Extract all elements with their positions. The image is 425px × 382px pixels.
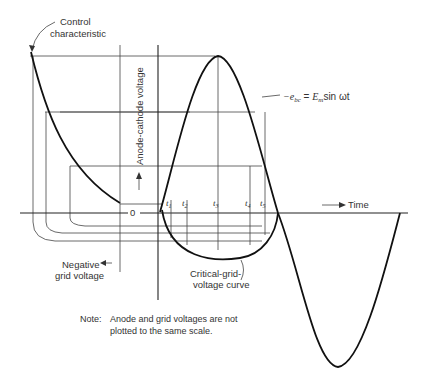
control-label-2: characteristic xyxy=(50,28,106,39)
y-axis-label: Anode-cathode voltage xyxy=(134,67,145,165)
control-leader-arrowhead xyxy=(29,45,35,52)
time-markers: t1 t2 t3 t4 t5 xyxy=(166,198,266,209)
critical-grid-voltage-curve xyxy=(162,210,278,259)
thyratron-grid-control-diagram: Control characteristic Anode-cathode vol… xyxy=(0,0,425,382)
critical-label-leader xyxy=(241,260,244,280)
note-line-2: plotted to the same scale. xyxy=(110,326,213,336)
control-label-1: Control xyxy=(60,16,91,27)
origin-label: 0 xyxy=(130,207,135,218)
control-characteristic-curve xyxy=(31,52,120,203)
time-marker-t1: t1 xyxy=(166,198,172,209)
critical-curve-label-1: Critical-grid- xyxy=(190,268,241,279)
time-axis-label: Time xyxy=(348,199,369,210)
equation: −ebc = Emsin ωt xyxy=(283,91,350,104)
y-axis-arrowhead xyxy=(136,172,142,179)
anode-voltage-negative-half xyxy=(278,213,400,367)
grid-curve-inner xyxy=(70,166,262,226)
anode-voltage-positive-half xyxy=(160,56,278,213)
note-label: Note: xyxy=(80,314,102,324)
equation-lhs: −e xyxy=(283,91,295,102)
negative-arrowhead xyxy=(100,260,106,266)
negative-grid-label-1: Negative xyxy=(62,259,100,270)
critical-curve-label-2: voltage curve xyxy=(193,279,250,290)
equation-equals: = xyxy=(301,91,312,102)
time-arrowhead xyxy=(339,202,346,208)
time-marker-t2: t2 xyxy=(182,198,188,209)
equation-leader xyxy=(262,95,280,97)
note-line-1: Anode and grid voltages are not xyxy=(110,314,238,324)
equation-rhs-tail: sin ωt xyxy=(323,91,349,102)
equation-rhs-e: E xyxy=(311,91,318,102)
negative-grid-label-2: grid voltage xyxy=(55,270,104,281)
